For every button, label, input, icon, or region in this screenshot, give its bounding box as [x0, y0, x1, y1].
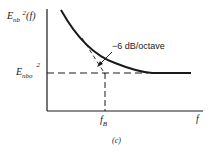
- figure-caption: (c): [112, 137, 121, 145]
- x-axis-label: f: [196, 114, 199, 124]
- slope-annotation: −6 dB/octave: [112, 42, 165, 51]
- corner-frequency-label: fB: [100, 115, 107, 128]
- y-axis-label: Enb 2(f): [7, 10, 36, 24]
- floor-label: Enbo2: [16, 66, 36, 80]
